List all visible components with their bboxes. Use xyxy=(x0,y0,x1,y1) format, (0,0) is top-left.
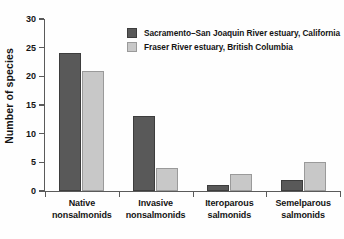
x-category-label-line: nonsalmonids xyxy=(119,210,193,222)
bar-group xyxy=(45,19,119,191)
x-group-tick xyxy=(119,191,120,197)
y-tick-mark xyxy=(39,18,44,19)
legend-swatch-icon xyxy=(127,42,137,52)
x-category-label-line: Invasive xyxy=(119,198,193,210)
x-category-label-line: salmonids xyxy=(266,210,340,222)
y-tick-label: 20 xyxy=(14,71,40,81)
y-tick-label: 30 xyxy=(14,14,40,24)
x-category-label: Invasivenonsalmonids xyxy=(119,198,193,221)
y-tick-label: 25 xyxy=(14,43,40,53)
x-group-tick xyxy=(45,191,46,197)
x-group-tick xyxy=(193,191,194,197)
y-tick-mark xyxy=(39,76,44,77)
x-category-label-line: Semelparous xyxy=(266,198,340,210)
legend-item[interactable]: Fraser River estuary, British Columbia xyxy=(127,41,340,53)
bar xyxy=(156,168,178,191)
y-tick-mark xyxy=(39,162,44,163)
x-group-tick xyxy=(340,191,341,197)
y-tick-label: 15 xyxy=(14,100,40,110)
x-axis-category-labels: NativenonsalmonidsInvasivenonsalmonidsIt… xyxy=(45,198,340,232)
bar xyxy=(230,174,252,191)
x-category-label-line: nonsalmonids xyxy=(45,210,119,222)
y-axis-tick-labels: 051015202530 xyxy=(14,0,40,239)
y-tick-mark xyxy=(39,190,44,191)
x-category-label-line: salmonids xyxy=(193,210,267,222)
x-group-tick xyxy=(266,191,267,197)
bar xyxy=(304,162,326,191)
bar-chart: Number of species 051015202530 Sacrament… xyxy=(0,0,344,239)
y-tick-label: 0 xyxy=(14,186,40,196)
x-category-label: Iteroparoussalmonids xyxy=(193,198,267,221)
legend-label: Fraser River estuary, British Columbia xyxy=(144,42,293,52)
y-tick-label: 5 xyxy=(14,157,40,167)
chart-legend: Sacramento–San Joaquin River estuary, Ca… xyxy=(127,27,340,55)
bar xyxy=(82,71,104,191)
y-tick-label: 10 xyxy=(14,129,40,139)
bar xyxy=(281,180,303,191)
bar xyxy=(59,53,81,191)
y-tick-mark xyxy=(39,104,44,105)
y-tick-mark xyxy=(39,133,44,134)
x-category-label: Semelparoussalmonids xyxy=(266,198,340,221)
x-category-label-line: Native xyxy=(45,198,119,210)
bar xyxy=(133,116,155,191)
x-category-label-line: Iteroparous xyxy=(193,198,267,210)
legend-item[interactable]: Sacramento–San Joaquin River estuary, Ca… xyxy=(127,27,340,39)
legend-swatch-icon xyxy=(127,28,137,38)
x-category-label: Nativenonsalmonids xyxy=(45,198,119,221)
legend-label: Sacramento–San Joaquin River estuary, Ca… xyxy=(144,28,340,38)
y-tick-mark xyxy=(39,47,44,48)
bar xyxy=(207,185,229,191)
